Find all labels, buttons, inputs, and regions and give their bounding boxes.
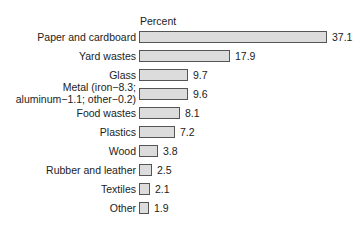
category-label: Other <box>110 202 136 214</box>
bar <box>139 126 175 138</box>
bar <box>139 69 188 81</box>
value-label: 9.6 <box>193 88 208 100</box>
value-label: 17.9 <box>235 50 255 62</box>
category-label: Metal (iron−8.3;aluminum−1.1; other−0.2) <box>16 81 136 105</box>
value-label: 2.1 <box>155 183 170 195</box>
category-label: Glass <box>109 69 136 81</box>
category-label-line: Metal (iron−8.3; <box>16 81 136 93</box>
category-label-line: aluminum−1.1; other−0.2) <box>16 93 136 105</box>
bar-row: Yard wastes17.9 <box>0 49 363 65</box>
value-label: 9.7 <box>193 69 208 81</box>
bar <box>139 164 152 176</box>
value-label: 7.2 <box>180 126 195 138</box>
category-label: Rubber and leather <box>46 164 136 176</box>
bar <box>139 183 150 195</box>
bar-row: Textiles2.1 <box>0 182 363 198</box>
bar <box>139 107 180 119</box>
bar-row: Metal (iron−8.3;aluminum−1.1; other−0.2)… <box>0 87 363 103</box>
value-label: 1.9 <box>154 202 169 214</box>
bar-row: Food wastes8.1 <box>0 106 363 122</box>
bar-row: Wood3.8 <box>0 144 363 160</box>
bar-row: Other1.9 <box>0 201 363 217</box>
category-label: Plastics <box>100 126 136 138</box>
category-label: Yard wastes <box>79 50 136 62</box>
bar <box>139 50 230 62</box>
category-label: Textiles <box>101 183 136 195</box>
category-label: Wood <box>109 145 136 157</box>
bar <box>139 31 327 43</box>
bar-row: Plastics7.2 <box>0 125 363 141</box>
category-label: Paper and cardboard <box>37 31 136 43</box>
bar <box>139 88 188 100</box>
unit-label: Percent <box>140 15 176 27</box>
value-label: 37.1 <box>332 31 352 43</box>
value-label: 2.5 <box>157 164 172 176</box>
bar-row: Paper and cardboard37.1 <box>0 30 363 46</box>
bar-row: Rubber and leather2.5 <box>0 163 363 179</box>
value-label: 3.8 <box>163 145 178 157</box>
category-label: Food wastes <box>76 107 136 119</box>
value-label: 8.1 <box>185 107 200 119</box>
bar <box>139 202 149 214</box>
bar <box>139 145 158 157</box>
